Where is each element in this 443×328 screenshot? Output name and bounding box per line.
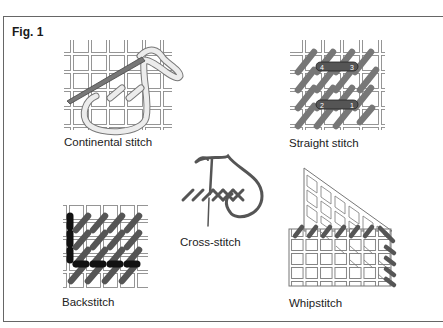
cross-stitch-diagram — [183, 156, 262, 226]
caption-cross-stitch: Cross-stitch — [180, 236, 241, 248]
whipstitch-diagram — [289, 168, 394, 286]
caption-whipstitch: Whipstitch — [289, 297, 342, 309]
step-number-4: 4 — [320, 64, 324, 71]
step-number-3: 3 — [350, 64, 354, 71]
backstitch-diagram — [63, 205, 148, 290]
continental-stitch-diagram — [64, 40, 180, 132]
front-canvas-panel — [289, 229, 391, 286]
caption-backstitch: Backstitch — [62, 296, 114, 308]
straight-stitch-diagram — [290, 40, 385, 130]
needle-icon — [210, 158, 212, 194]
thread — [196, 156, 262, 217]
step-number-2: 2 — [320, 102, 324, 109]
half-stitches — [183, 190, 243, 200]
caption-continental-stitch: Continental stitch — [64, 136, 152, 148]
step-number-1: 1 — [350, 102, 354, 109]
back-canvas-panel — [304, 168, 392, 231]
caption-straight-stitch: Straight stitch — [289, 137, 359, 149]
needle-thread — [208, 198, 209, 226]
